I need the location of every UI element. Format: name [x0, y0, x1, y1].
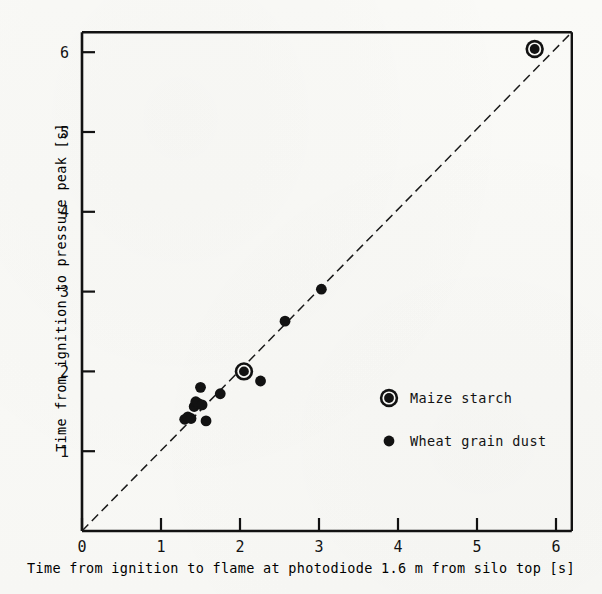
data-point-wheat-grain-dust: [186, 413, 197, 424]
x-axis-tick-label: 3: [314, 538, 323, 556]
x-axis-tick-label: 6: [551, 538, 560, 556]
x-axis-tick-label: 4: [393, 538, 402, 556]
data-point-maize-starch-core: [530, 44, 540, 54]
legend-marker-maize-starch-core: [384, 393, 394, 403]
data-point-wheat-grain-dust: [215, 388, 226, 399]
data-point-wheat-grain-dust: [316, 284, 327, 295]
x-axis-tick-label: 0: [77, 538, 86, 556]
y-axis-title: Time from ignition to pressure peak [s]: [51, 78, 70, 498]
legend-marker-wheat-grain-dust: [384, 436, 395, 447]
x-axis-title: Time from ignition to flame at photodiod…: [0, 558, 602, 577]
data-point-wheat-grain-dust: [197, 400, 208, 411]
x-axis-title-text: Time from ignition to flame at photodiod…: [27, 560, 575, 576]
y-axis-title-text: Time from ignition to pressure peak [s]: [53, 123, 69, 452]
figure-container: 1234560123456Maize starchWheat grain dus…: [0, 0, 602, 594]
scatter-plot: 1234560123456Maize starchWheat grain dus…: [0, 0, 602, 594]
data-point-wheat-grain-dust: [280, 316, 291, 327]
x-axis-tick-label: 2: [235, 538, 244, 556]
y-axis-tick-label: 6: [60, 44, 69, 62]
reference-diagonal-line: [82, 32, 572, 531]
x-axis-tick-label: 1: [156, 538, 165, 556]
data-point-wheat-grain-dust: [195, 382, 206, 393]
x-axis-tick-label: 5: [472, 538, 481, 556]
data-point-maize-starch-core: [239, 367, 249, 377]
data-point-wheat-grain-dust: [255, 376, 266, 387]
legend-label-maize-starch: Maize starch: [410, 390, 512, 406]
legend-label-wheat-grain-dust: Wheat grain dust: [410, 433, 546, 449]
data-point-wheat-grain-dust: [201, 415, 212, 426]
